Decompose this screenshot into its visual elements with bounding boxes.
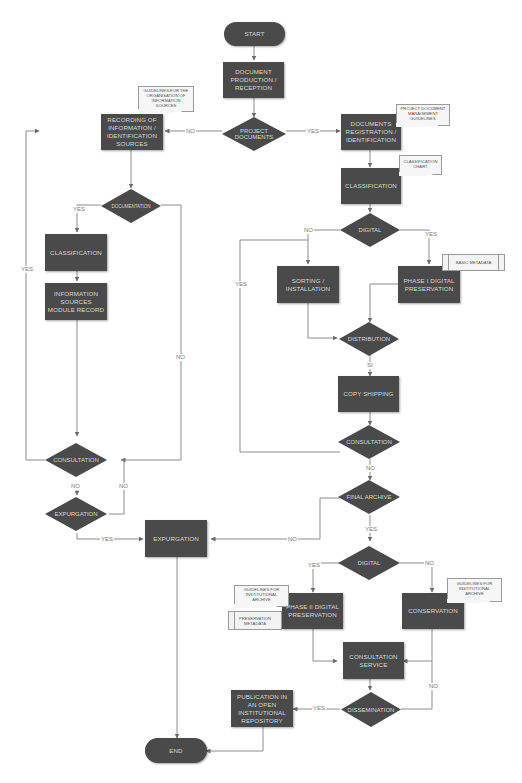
consultation-left-decision: CONSULTATION (45, 443, 107, 477)
digital-top-decision: DIGITAL (340, 213, 400, 247)
flowchart-canvas: START END DOCUMENT PRODUCTION / RECEPTIO… (0, 0, 522, 783)
expurgation-box: EXPURGATION (145, 520, 207, 557)
edge-label-yes-expurgation: YES (100, 536, 114, 543)
consultation-right-decision: CONSULTATION (338, 425, 400, 459)
edge-label-yes-left-loop: YES (20, 266, 34, 273)
project-doc-guidelines-note: PROJECT DOCUMENT MANAGEMENT GUIDELINES (396, 104, 450, 126)
classification-chart-note: CLASSIFICATION CHART (399, 155, 442, 175)
expurgation-decision-label: EXPURGATION (45, 497, 107, 531)
digital-bottom-label: DIGITAL (338, 546, 400, 580)
edge-label-yes-right-loop: YES (234, 281, 248, 288)
expurgation-decision: EXPURGATION (45, 497, 107, 531)
edge-label-no-project: NO (185, 128, 196, 135)
digital-top-label: DIGITAL (340, 213, 400, 247)
project-documents-label: PROJECT DOCUMENTS (222, 117, 286, 151)
edge-label-yes-project: YES (306, 128, 320, 135)
information-sources-record-box: INFORMATION SOURCES MODULE RECORD (45, 283, 107, 320)
preservation-metadata-store: PRESERVATION METADATA (228, 611, 282, 630)
project-documents-decision: PROJECT DOCUMENTS (222, 117, 286, 151)
copy-shipping-box: COPY SHIPPING (338, 376, 399, 412)
documentation-decision: DOCUMENTATION (101, 189, 161, 223)
distribution-decision: DISTRIBUTION (339, 322, 399, 356)
edge-label-no-digital-bottom: NO (424, 560, 435, 567)
edge-label-no-final-archive: NO (287, 536, 298, 543)
phase2-digital-preservation-box: PHASE II DIGITAL PRESERVATION (282, 593, 343, 629)
sorting-installation-box: SORTING / INSTALLATION (277, 266, 339, 303)
edge-label-yes-final-archive: YES (364, 526, 378, 533)
guidelines-info-sources-note: GUIDELINES FOR THE ORGANISATION OF INFOR… (138, 86, 194, 112)
datastore-divider (234, 612, 235, 629)
phase1-digital-preservation-box: PHASE I DIGITAL PRESERVATION (398, 266, 460, 303)
preservation-metadata-label: PRESERVATION METADATA (229, 616, 281, 626)
publication-repository-box: PUBLICATION IN AN OPEN INSTITUTIONAL REP… (231, 690, 293, 727)
edge-label-no-documentation: NO (175, 354, 186, 361)
edge-label-no-consultation-left: NO (70, 483, 81, 490)
dissemination-decision: DISSEMINATION (341, 692, 401, 727)
final-archive-decision: FINAL ARCHIVE (338, 480, 400, 514)
datastore-divider (448, 255, 449, 270)
guidelines-inst-archive-right-note: GUIDELINES FOR INSTITUTIONAL ARCHIVE (447, 578, 502, 602)
edge-label-yes-digital-top: YES (424, 231, 438, 238)
edge-label-si-distribution: SI (366, 362, 374, 369)
digital-bottom-decision: DIGITAL (338, 546, 400, 580)
distribution-label: DISTRIBUTION (339, 322, 399, 356)
edge-label-yes-digital-bottom: YES (307, 562, 321, 569)
classification-left-box: CLASSIFICATION (45, 234, 107, 271)
edge-label-no-consultation-right: NO (365, 465, 376, 472)
recording-information-box: RECORDING OF INFORMATION / IDENTIFICATIO… (101, 114, 163, 150)
edge-label-no-dissemination: NO (428, 683, 439, 690)
edge-label-yes-documentation: YES (72, 206, 86, 213)
edge-label-no-expurgation: NO (118, 483, 129, 490)
edge-label-no-digital-top: NO (303, 227, 314, 234)
dissemination-label: DISSEMINATION (341, 692, 401, 727)
final-archive-label: FINAL ARCHIVE (338, 480, 400, 514)
edge-label-yes-dissemination: YES (312, 705, 326, 712)
consultation-left-label: CONSULTATION (45, 443, 107, 477)
classification-right-box: CLASSIFICATION (341, 168, 401, 204)
datastore-divider (498, 255, 499, 270)
consultation-service-box: CONSULTATION SERVICE (343, 642, 404, 679)
basic-metadata-store: BASIC METADATA (442, 254, 505, 271)
end-terminal: END (145, 738, 207, 763)
documents-registration-box: DOCUMENTS REGISTRATION / IDENTIFICATION (341, 114, 401, 150)
basic-metadata-label: BASIC METADATA (456, 260, 492, 265)
consultation-right-label: CONSULTATION (338, 425, 400, 459)
guidelines-inst-archive-left-note: GUIDELINES FOR INSTITUTIONAL ARCHIVE (234, 585, 289, 607)
start-terminal: START (224, 22, 285, 46)
documentation-label: DOCUMENTATION (101, 189, 161, 223)
document-production-box: DOCUMENT PRODUCTION / RECEPTION (223, 62, 284, 98)
